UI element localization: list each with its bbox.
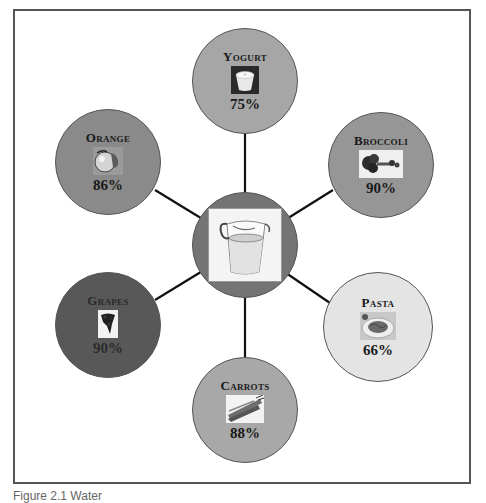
carrots-icon <box>226 395 264 423</box>
node-label: Carrots <box>221 379 270 392</box>
pasta-plate-icon <box>360 312 396 340</box>
node-value: 66% <box>363 343 393 358</box>
node-label: Grapes <box>87 294 128 307</box>
grapes-icon <box>98 310 118 338</box>
node-value: 90% <box>93 341 123 356</box>
broccoli-icon <box>359 150 403 178</box>
yogurt-cup-icon <box>231 66 259 94</box>
node-pasta: Pasta 66% <box>323 272 433 382</box>
node-yogurt: Yogurt 75% <box>192 28 298 134</box>
node-label: Pasta <box>362 296 395 309</box>
node-center-water <box>192 192 298 298</box>
node-carrots: Carrots 88% <box>192 357 298 463</box>
node-value: 88% <box>230 426 260 441</box>
node-broccoli: Broccoli 90% <box>328 112 434 218</box>
node-label: Orange <box>86 131 130 144</box>
water-pitcher-icon <box>208 208 282 282</box>
node-value: 90% <box>366 181 396 196</box>
node-label: Yogurt <box>223 50 267 63</box>
node-orange: Orange 86% <box>55 109 161 215</box>
node-value: 86% <box>93 178 123 193</box>
node-label: Broccoli <box>354 134 408 147</box>
node-grapes: Grapes 90% <box>55 272 161 378</box>
node-value: 75% <box>230 97 260 112</box>
figure-caption: Figure 2.1 Water <box>13 489 102 503</box>
orange-fruit-icon <box>93 147 123 175</box>
